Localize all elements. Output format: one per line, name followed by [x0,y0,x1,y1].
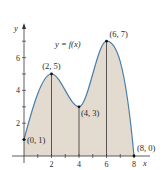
y-tick-label: 2 [16,119,20,128]
point-label: (8, 0) [137,143,156,153]
x-tick-label: 2 [50,160,54,169]
point-label: (0, 1) [27,135,46,145]
point-marker [78,105,81,108]
function-area-chart: 2468246 y x y = f(x) (0, 1)(2, 5)(4, 3)(… [0,0,163,170]
x-tick-label: 4 [77,160,81,169]
point-marker [23,138,26,141]
point-marker [133,155,136,158]
point-label: (4, 3) [81,108,100,118]
point-marker [50,73,53,76]
y-tick-label: 6 [16,54,20,63]
x-tick-label: 8 [132,160,136,169]
point-label: (2, 5) [42,61,61,71]
x-axis-label: x [142,158,147,168]
y-tick-label: 4 [16,86,20,95]
y-axis-arrow-icon [22,23,26,29]
y-axis-label: y [13,23,18,33]
point-marker [105,40,108,43]
x-tick-label: 6 [105,160,109,169]
point-label: (6, 7) [110,29,129,39]
function-label: y = f(x) [54,39,81,49]
